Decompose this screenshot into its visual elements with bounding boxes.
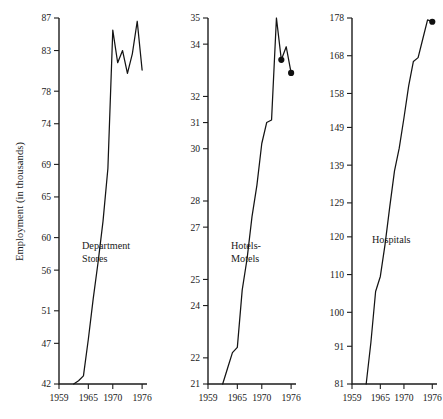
y-tick-label: 74 bbox=[41, 118, 51, 129]
series-label: DepartmentStores bbox=[82, 240, 130, 264]
y-tick-label: 60 bbox=[41, 232, 51, 243]
y-tick-label: 65 bbox=[41, 191, 51, 202]
series-label: Hospitals bbox=[372, 234, 411, 245]
y-tick-label: 149 bbox=[330, 122, 345, 133]
y-tick-label: 28 bbox=[190, 195, 200, 206]
x-tick-label: 1976 bbox=[423, 392, 442, 403]
y-axis-title-container: Employment (in thousands) bbox=[0, 0, 18, 419]
x-tick-label: 1959 bbox=[342, 392, 361, 403]
endpoint-marker bbox=[288, 70, 294, 76]
y-tick-label: 129 bbox=[330, 197, 345, 208]
x-tick-label: 1965 bbox=[371, 392, 390, 403]
x-tick-label: 1965 bbox=[228, 392, 247, 403]
y-tick-label: 178 bbox=[330, 12, 345, 23]
chart-canvas: 42475156606569747883871959196519701976De… bbox=[0, 0, 443, 419]
y-tick-label: 158 bbox=[330, 88, 345, 99]
x-tick-label: 1976 bbox=[282, 392, 301, 403]
y-tick-label: 56 bbox=[41, 265, 51, 276]
y-tick-label: 87 bbox=[41, 12, 51, 23]
y-tick-label: 24 bbox=[190, 300, 200, 311]
y-tick-label: 31 bbox=[190, 117, 200, 128]
panel-hotels-motels: 21222425272830313234351959196519701976Ho… bbox=[190, 12, 301, 403]
data-line bbox=[366, 20, 432, 384]
x-tick-label: 1959 bbox=[198, 392, 217, 403]
y-tick-label: 34 bbox=[190, 39, 200, 50]
series-label: Hotels-Motels bbox=[231, 240, 262, 264]
panel-hospitals: 8191100110120129139149158168178195919651… bbox=[330, 12, 442, 403]
axis-spine bbox=[208, 18, 296, 384]
y-tick-label: 91 bbox=[334, 341, 344, 352]
y-tick-label: 32 bbox=[190, 91, 200, 102]
x-tick-label: 1970 bbox=[103, 392, 122, 403]
y-tick-label: 21 bbox=[190, 378, 200, 389]
y-tick-label: 51 bbox=[41, 305, 51, 316]
y-tick-label: 35 bbox=[190, 12, 200, 23]
y-tick-label: 168 bbox=[330, 50, 345, 61]
endpoint-marker bbox=[429, 19, 435, 25]
data-line bbox=[74, 21, 142, 384]
y-tick-label: 78 bbox=[41, 86, 51, 97]
panel-department-stores: 42475156606569747883871959196519701976De… bbox=[41, 12, 152, 403]
y-tick-label: 69 bbox=[41, 159, 51, 170]
data-line bbox=[223, 18, 291, 384]
x-tick-label: 1976 bbox=[133, 392, 152, 403]
three-panel-line-chart-figure: Employment (in thousands) 42475156606569… bbox=[0, 0, 443, 419]
x-tick-label: 1970 bbox=[394, 392, 413, 403]
y-tick-label: 83 bbox=[41, 45, 51, 56]
y-tick-label: 120 bbox=[330, 231, 345, 242]
y-tick-label: 30 bbox=[190, 143, 200, 154]
y-tick-label: 110 bbox=[330, 269, 344, 280]
y-axis-title: Employment (in thousands) bbox=[14, 87, 25, 317]
x-tick-label: 1959 bbox=[49, 392, 68, 403]
y-tick-label: 42 bbox=[41, 378, 51, 389]
endpoint-marker bbox=[278, 57, 284, 63]
y-tick-label: 22 bbox=[190, 352, 200, 363]
x-tick-label: 1970 bbox=[252, 392, 271, 403]
y-tick-label: 100 bbox=[330, 307, 345, 318]
y-tick-label: 27 bbox=[190, 222, 200, 233]
y-tick-label: 139 bbox=[330, 160, 345, 171]
axis-spine bbox=[59, 18, 147, 384]
x-tick-label: 1965 bbox=[79, 392, 98, 403]
y-tick-label: 47 bbox=[41, 338, 51, 349]
y-tick-label: 81 bbox=[334, 378, 344, 389]
y-tick-label: 25 bbox=[190, 274, 200, 285]
axis-spine bbox=[352, 18, 437, 384]
